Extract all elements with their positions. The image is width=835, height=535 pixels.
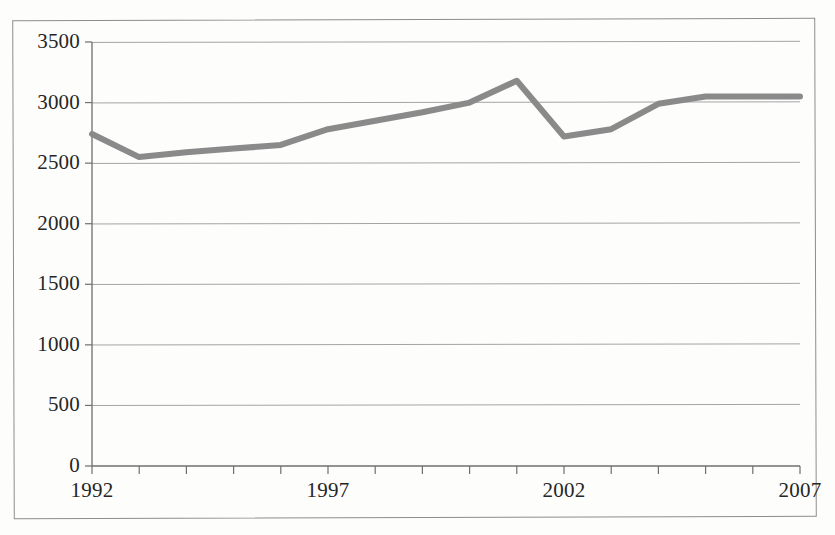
gridline bbox=[92, 102, 800, 103]
y-tick-label: 3000 bbox=[37, 90, 80, 115]
x-tick-label: 2007 bbox=[760, 478, 835, 503]
line-chart-plot bbox=[0, 0, 835, 535]
gridline bbox=[92, 41, 800, 42]
gridline bbox=[92, 223, 800, 224]
x-tick-label: 1992 bbox=[52, 478, 132, 503]
y-tick-label: 500 bbox=[48, 392, 80, 417]
chart-figure: 0500100015002000250030003500 19921997200… bbox=[0, 0, 835, 535]
x-tick-marks-group bbox=[92, 466, 800, 474]
y-tick-label: 1000 bbox=[37, 332, 80, 357]
y-tick-marks-group bbox=[85, 42, 92, 466]
y-tick-label: 3500 bbox=[37, 29, 80, 54]
y-tick-label: 0 bbox=[69, 453, 80, 478]
y-tick-label: 2000 bbox=[37, 211, 80, 236]
gridline bbox=[92, 162, 800, 163]
x-tick-label: 1997 bbox=[288, 478, 368, 503]
gridline bbox=[92, 344, 800, 345]
y-tick-label: 1500 bbox=[37, 271, 80, 296]
data-series-line bbox=[92, 81, 800, 157]
y-tick-label: 2500 bbox=[37, 150, 80, 175]
gridline bbox=[92, 283, 800, 284]
gridline bbox=[92, 404, 800, 405]
x-tick-label: 2002 bbox=[524, 478, 604, 503]
